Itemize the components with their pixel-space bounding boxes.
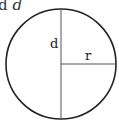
radius-label: r xyxy=(85,48,92,63)
circle-diagram: d r xyxy=(0,0,119,120)
diameter-label: d xyxy=(50,36,58,51)
